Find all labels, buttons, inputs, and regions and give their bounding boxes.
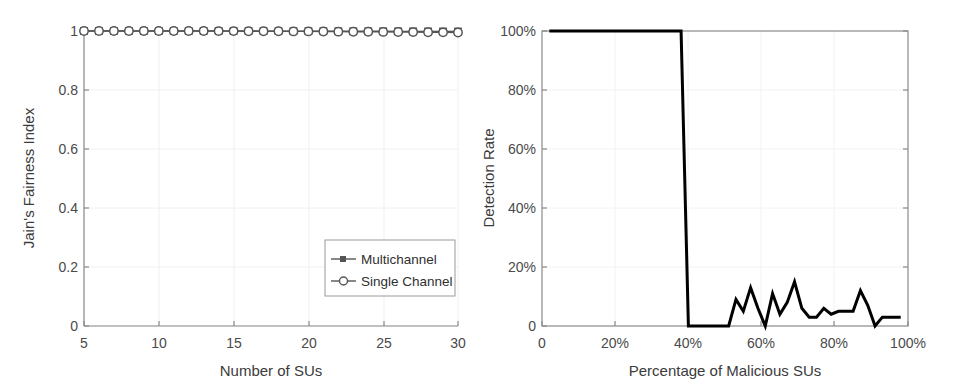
left-legend[interactable]: Multichannel Single Channel [325,240,455,296]
series-single-channel [80,27,462,37]
right-ytick-label-2: 40% [508,200,536,216]
left-ytick-label-1: 0.2 [59,259,79,275]
circle-marker-icon [364,28,372,36]
chart-panel-right: 100% 80% 60% 40% 20% 0 0 20% 40% 60% 80%… [470,0,953,391]
circle-marker-icon [80,27,88,35]
circle-marker-icon [214,27,222,35]
square-marker-icon [340,256,346,262]
circle-marker-icon [439,28,447,36]
left-xtick-label-3: 20 [301,335,317,351]
circle-marker-icon [140,27,148,35]
left-xaxis-title: Number of SUs [220,362,323,379]
left-xtick-label-1: 10 [151,335,167,351]
circle-marker-icon [340,277,348,285]
circle-marker-icon [229,27,237,35]
chart-panel-left: 1 0.8 0.6 0.4 0.2 0 5 10 15 20 25 30 Num… [0,0,470,391]
right-plot-box [542,31,908,326]
circle-marker-icon [394,28,402,36]
circle-marker-icon [244,27,252,35]
series-line [549,31,900,326]
circle-marker-icon [409,28,417,36]
left-ytick-label-0: 0 [70,318,78,334]
right-xtick-label-2: 40% [674,335,702,351]
right-ytick-label-1: 20% [508,259,536,275]
left-yaxis-title: Jain's Fairness Index [20,107,37,248]
right-xtick-label-4: 80% [820,335,848,351]
right-ytick-label-4: 80% [508,82,536,98]
right-xaxis-title: Percentage of Malicious SUs [629,362,822,379]
right-ytick-label-3: 60% [508,141,536,157]
left-ytick-label-4: 0.8 [59,82,79,98]
circle-marker-icon [110,27,118,35]
right-xtick-label-0: 0 [538,335,546,351]
left-xtick-label-0: 5 [80,335,88,351]
right-axis-ticks [542,31,908,326]
circle-marker-icon [349,28,357,36]
right-gridlines [542,31,908,326]
figure-container: 1 0.8 0.6 0.4 0.2 0 5 10 15 20 25 30 Num… [0,0,953,391]
left-xtick-label-5: 30 [450,335,466,351]
circle-marker-icon [454,28,462,36]
circle-marker-icon [424,28,432,36]
circle-marker-icon [334,27,342,35]
right-yaxis-title: Detection Rate [480,128,497,227]
left-xtick-label-2: 15 [226,335,242,351]
circle-marker-icon [319,27,327,35]
circle-marker-icon [379,28,387,36]
circle-marker-icon [125,27,133,35]
circle-marker-icon [304,27,312,35]
right-xtick-label-5: 100% [890,335,926,351]
right-ytick-label-0: 0 [528,318,536,334]
circle-marker-icon [170,27,178,35]
right-chart-svg: 100% 80% 60% 40% 20% 0 0 20% 40% 60% 80%… [470,0,953,391]
circle-marker-icon [185,27,193,35]
left-chart-svg: 1 0.8 0.6 0.4 0.2 0 5 10 15 20 25 30 Num… [0,0,470,391]
right-xtick-label-1: 20% [601,335,629,351]
right-xtick-label-3: 60% [747,335,775,351]
legend-label-multichannel: Multichannel [361,252,437,267]
right-ytick-label-5: 100% [500,23,536,39]
circle-marker-icon [199,27,207,35]
circle-marker-icon [259,27,267,35]
left-xtick-label-4: 25 [376,335,392,351]
circle-marker-icon [95,27,103,35]
left-ytick-label-5: 1 [70,23,78,39]
series-detection-rate [549,31,900,326]
circle-marker-icon [289,27,297,35]
circle-marker-icon [274,27,282,35]
left-ytick-label-3: 0.6 [59,141,79,157]
left-ytick-label-2: 0.4 [59,200,79,216]
circle-marker-icon [155,27,163,35]
legend-label-single-channel: Single Channel [361,274,453,289]
